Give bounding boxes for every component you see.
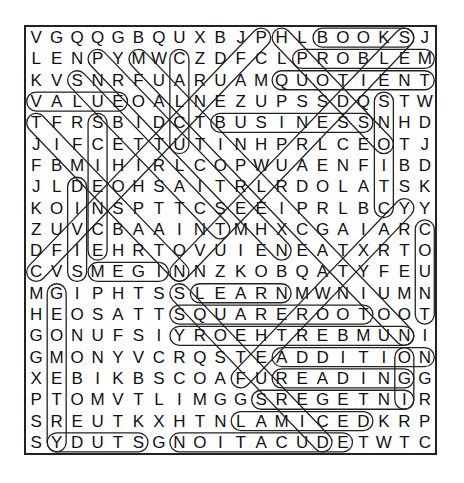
grid-cell[interactable]: T — [394, 240, 414, 261]
grid-cell[interactable]: R — [251, 283, 271, 304]
grid-cell[interactable]: Y — [394, 197, 414, 218]
grid-cell[interactable]: Y — [108, 48, 128, 69]
grid-cell[interactable]: T — [108, 410, 128, 431]
grid-cell[interactable]: R — [292, 325, 312, 346]
grid-cell[interactable]: F — [108, 325, 128, 346]
grid-cell[interactable]: N — [374, 112, 394, 133]
grid-cell[interactable]: T — [128, 389, 148, 410]
grid-cell[interactable]: C — [271, 432, 291, 453]
grid-cell[interactable]: B — [333, 325, 353, 346]
grid-cell[interactable]: K — [374, 27, 394, 48]
grid-cell[interactable]: U — [87, 91, 107, 112]
grid-cell[interactable]: I — [128, 112, 148, 133]
grid-cell[interactable]: S — [210, 197, 230, 218]
grid-cell[interactable]: B — [353, 48, 373, 69]
grid-cell[interactable]: T — [353, 432, 373, 453]
grid-cell[interactable]: C — [26, 261, 46, 282]
grid-cell[interactable]: E — [333, 410, 353, 431]
grid-cell[interactable]: E — [46, 48, 66, 69]
grid-cell[interactable]: S — [87, 112, 107, 133]
grid-cell[interactable]: S — [67, 70, 87, 91]
grid-cell[interactable]: N — [190, 219, 210, 240]
grid-cell[interactable]: E — [333, 389, 353, 410]
grid-cell[interactable]: D — [292, 176, 312, 197]
grid-cell[interactable]: R — [251, 304, 271, 325]
grid-cell[interactable]: R — [374, 240, 394, 261]
grid-cell[interactable]: F — [374, 261, 394, 282]
grid-cell[interactable]: P — [231, 155, 251, 176]
grid-cell[interactable]: C — [374, 197, 394, 218]
grid-cell[interactable]: C — [169, 48, 189, 69]
grid-cell[interactable]: G — [128, 261, 148, 282]
grid-cell[interactable]: N — [87, 70, 107, 91]
grid-cell[interactable]: A — [292, 155, 312, 176]
grid-cell[interactable]: U — [210, 304, 230, 325]
grid-cell[interactable]: L — [46, 176, 66, 197]
grid-cell[interactable]: T — [46, 389, 66, 410]
grid-cell[interactable]: E — [108, 261, 128, 282]
grid-cell[interactable]: E — [46, 304, 66, 325]
grid-cell[interactable]: E — [46, 368, 66, 389]
grid-cell[interactable]: L — [374, 48, 394, 69]
grid-cell[interactable]: O — [46, 325, 66, 346]
grid-cell[interactable]: O — [374, 304, 394, 325]
grid-cell[interactable]: Y — [415, 197, 435, 218]
grid-cell[interactable]: I — [374, 346, 394, 367]
grid-cell[interactable]: K — [128, 410, 148, 431]
grid-cell[interactable]: T — [190, 410, 210, 431]
grid-cell[interactable]: G — [415, 368, 435, 389]
grid-cell[interactable]: T — [374, 176, 394, 197]
grid-cell[interactable]: B — [108, 219, 128, 240]
grid-cell[interactable]: T — [26, 112, 46, 133]
grid-cell[interactable]: T — [231, 432, 251, 453]
grid-cell[interactable]: A — [149, 91, 169, 112]
grid-cell[interactable]: E — [108, 91, 128, 112]
grid-cell[interactable]: D — [149, 112, 169, 133]
grid-cell[interactable]: V — [128, 346, 148, 367]
grid-cell[interactable]: Q — [292, 261, 312, 282]
grid-cell[interactable]: J — [26, 176, 46, 197]
grid-cell[interactable]: O — [67, 346, 87, 367]
grid-cell[interactable]: B — [271, 261, 291, 282]
grid-cell[interactable]: B — [394, 155, 414, 176]
grid-cell[interactable]: U — [374, 325, 394, 346]
grid-cell[interactable]: H — [108, 240, 128, 261]
grid-cell[interactable]: E — [312, 155, 332, 176]
grid-cell[interactable]: L — [292, 27, 312, 48]
grid-cell[interactable]: O — [210, 155, 230, 176]
grid-cell[interactable]: J — [415, 133, 435, 154]
grid-cell[interactable]: B — [128, 27, 148, 48]
grid-cell[interactable]: M — [231, 219, 251, 240]
grid-cell[interactable]: I — [46, 133, 66, 154]
grid-cell[interactable]: S — [108, 197, 128, 218]
grid-cell[interactable]: W — [149, 48, 169, 69]
grid-cell[interactable]: N — [67, 48, 87, 69]
grid-cell[interactable]: E — [87, 176, 107, 197]
grid-cell[interactable]: O — [353, 27, 373, 48]
grid-cell[interactable]: U — [271, 155, 291, 176]
grid-cell[interactable]: N — [87, 197, 107, 218]
grid-cell[interactable]: Z — [26, 219, 46, 240]
grid-cell[interactable]: P — [292, 197, 312, 218]
grid-cell[interactable]: S — [128, 432, 148, 453]
grid-cell[interactable]: S — [394, 27, 414, 48]
grid-cell[interactable]: P — [26, 389, 46, 410]
grid-cell[interactable]: C — [415, 432, 435, 453]
grid-cell[interactable]: D — [333, 368, 353, 389]
grid-cell[interactable]: N — [271, 240, 291, 261]
grid-cell[interactable]: L — [333, 176, 353, 197]
grid-cell[interactable]: L — [169, 155, 189, 176]
grid-cell[interactable]: G — [46, 27, 66, 48]
grid-cell[interactable]: C — [190, 197, 210, 218]
grid-cell[interactable]: I — [333, 346, 353, 367]
grid-cell[interactable]: K — [108, 368, 128, 389]
grid-cell[interactable]: I — [67, 283, 87, 304]
grid-cell[interactable]: Y — [353, 261, 373, 282]
grid-cell[interactable]: T — [128, 304, 148, 325]
grid-cell[interactable]: W — [415, 91, 435, 112]
grid-cell[interactable]: L — [26, 48, 46, 69]
grid-cell[interactable]: M — [394, 283, 414, 304]
grid-cell[interactable]: U — [169, 133, 189, 154]
grid-cell[interactable]: T — [271, 325, 291, 346]
grid-cell[interactable]: O — [394, 346, 414, 367]
